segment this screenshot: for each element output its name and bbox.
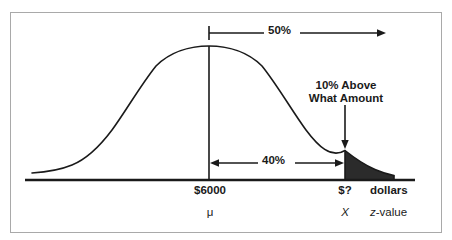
tail-callout-line-2: What Amount bbox=[292, 92, 400, 105]
distribution-plot bbox=[0, 0, 452, 240]
normal-distribution-figure: 50% 40% 10% Above What Amount $6000 μ $?… bbox=[0, 0, 452, 240]
fifty-percent-label: 50% bbox=[268, 24, 291, 37]
tail-callout-line-1: 10% Above bbox=[292, 79, 400, 92]
axis-tick-x-value: $? bbox=[322, 184, 368, 197]
forty-percent-arrowhead-right bbox=[335, 159, 344, 166]
shaded-tail-region bbox=[345, 151, 394, 181]
axis-tick-mean-symbol: μ bbox=[184, 206, 236, 219]
axis-zvalue-label: z-value bbox=[370, 206, 432, 219]
fifty-percent-arrowhead bbox=[377, 29, 386, 36]
bell-curve bbox=[32, 46, 394, 176]
forty-percent-label: 40% bbox=[262, 154, 285, 167]
axis-tick-x-symbol: X bbox=[322, 206, 368, 219]
callout-arrowhead bbox=[341, 140, 348, 149]
axis-tick-mean-value: $6000 bbox=[184, 184, 236, 197]
axis-units-label: dollars bbox=[370, 184, 428, 197]
axis-zvalue-suffix: -value bbox=[376, 206, 407, 218]
forty-percent-arrowhead-left bbox=[210, 159, 219, 166]
tail-callout-label: 10% Above What Amount bbox=[292, 79, 400, 105]
